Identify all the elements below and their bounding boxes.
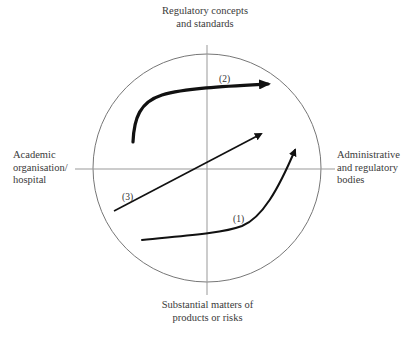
- axis-label-left-line-3: hospital: [13, 174, 83, 187]
- arrow-2: [133, 84, 268, 142]
- axis-label-right-line-2: and regulatory: [337, 162, 407, 175]
- axis-label-left: Academic organisation/ hospital: [13, 149, 83, 187]
- axis-label-bottom-line-1: Substantial matters of: [130, 299, 285, 312]
- arrow-2-label: (2): [219, 74, 230, 85]
- axis-label-left-line-2: organisation/: [13, 162, 83, 175]
- arrow-3-label: (3): [122, 192, 133, 203]
- arrow-1-label: (1): [233, 214, 244, 225]
- arrow-3: [114, 134, 261, 211]
- axis-label-right: Administrative and regulatory bodies: [337, 149, 407, 187]
- axis-label-top-line-1: Regulatory concepts: [130, 5, 280, 18]
- axis-label-bottom-line-2: products or risks: [130, 312, 285, 325]
- axis-label-top-line-2: and standards: [130, 18, 280, 31]
- axis-label-left-line-1: Academic: [13, 149, 83, 162]
- axis-label-top: Regulatory concepts and standards: [130, 5, 280, 30]
- axis-label-right-line-1: Administrative: [337, 149, 407, 162]
- axis-label-bottom: Substantial matters of products or risks: [130, 299, 285, 324]
- axis-label-right-line-3: bodies: [337, 174, 407, 187]
- arrow-1: [142, 150, 295, 240]
